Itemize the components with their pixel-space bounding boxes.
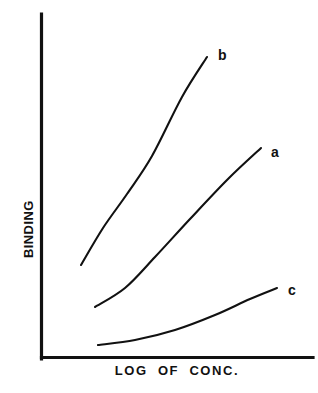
- curve-label-c: c: [288, 283, 296, 297]
- plot-area: [0, 0, 318, 393]
- curve-a: [95, 148, 261, 307]
- curve-label-b: b: [218, 48, 227, 62]
- binding-log-conc-figure: BINDING LOG OF CONC. b a c: [0, 0, 318, 393]
- curves-group: [81, 57, 277, 345]
- x-axis-title: LOG OF CONC.: [41, 364, 313, 377]
- y-axis-title: BINDING: [22, 200, 35, 258]
- curve-c: [98, 288, 277, 345]
- curve-label-a: a: [271, 145, 279, 159]
- curve-b: [81, 57, 207, 265]
- axes-group: [42, 14, 314, 359]
